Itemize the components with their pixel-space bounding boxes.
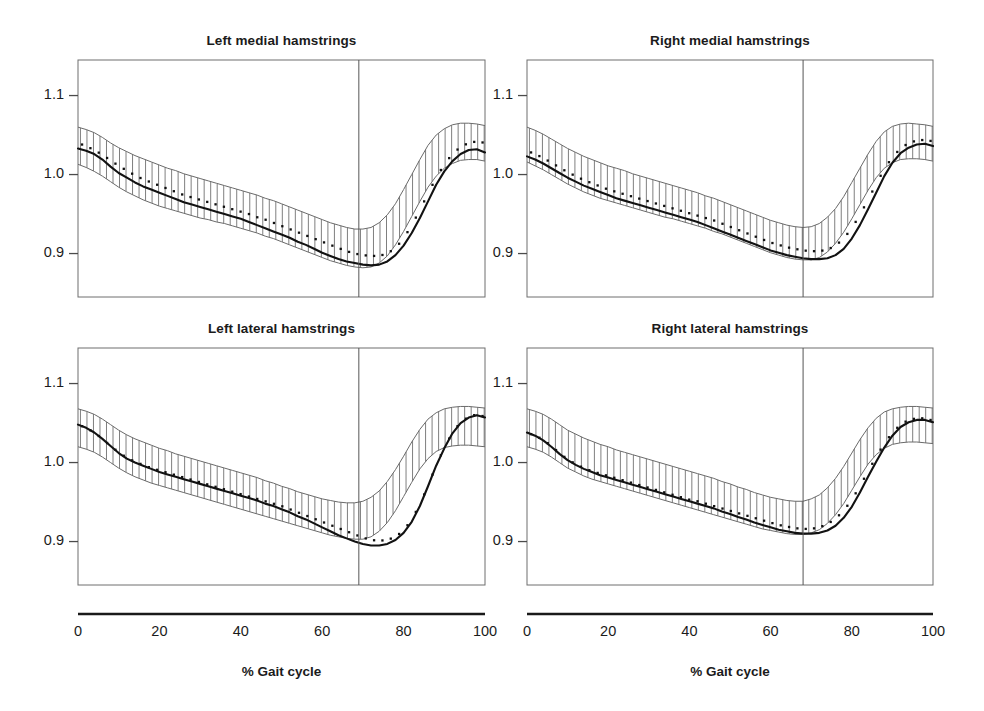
y-tick-label: 0.9 — [12, 532, 64, 548]
plot-area-bottom-right — [467, 340, 963, 607]
x-tick-label: 20 — [578, 623, 638, 639]
x-axis-rule-left — [74, 609, 489, 619]
plot-area-top-right — [467, 52, 963, 319]
y-tick-marks — [69, 384, 78, 542]
x-tick-label: 0 — [497, 623, 557, 639]
x-tick-label: 80 — [822, 623, 882, 639]
y-tick-label: 0.9 — [461, 532, 513, 548]
x-axis-rule-right — [523, 609, 937, 619]
y-tick-label: 0.9 — [461, 244, 513, 260]
y-tick-marks — [518, 384, 527, 542]
y-tick-label: 0.9 — [12, 244, 64, 260]
x-axis-title: % Gait cycle — [527, 664, 933, 679]
plot-area-bottom-left — [18, 340, 515, 607]
y-tick-label: 1.0 — [461, 165, 513, 181]
y-tick-label: 1.1 — [12, 374, 64, 390]
x-tick-label: 0 — [48, 623, 108, 639]
x-tick-label: 40 — [211, 623, 271, 639]
plot-area-top-left — [18, 52, 515, 319]
hamstrings-gait-figure: Left medial hamstrings0.91.01.1Right med… — [0, 0, 984, 711]
panel-title-top-left: Left medial hamstrings — [78, 33, 485, 48]
y-tick-marks — [69, 96, 78, 254]
x-axis-title: % Gait cycle — [78, 664, 485, 679]
y-tick-label: 1.1 — [12, 86, 64, 102]
x-tick-label: 80 — [374, 623, 434, 639]
y-tick-label: 1.0 — [461, 453, 513, 469]
y-tick-label: 1.1 — [461, 374, 513, 390]
y-tick-label: 1.0 — [12, 165, 64, 181]
x-tick-label: 100 — [903, 623, 963, 639]
panel-title-bottom-right: Right lateral hamstrings — [527, 321, 933, 336]
y-tick-marks — [518, 96, 527, 254]
x-tick-label: 60 — [292, 623, 352, 639]
y-tick-label: 1.0 — [12, 453, 64, 469]
x-tick-label: 60 — [741, 623, 801, 639]
x-tick-label: 40 — [659, 623, 719, 639]
x-tick-label: 20 — [129, 623, 189, 639]
panel-title-top-right: Right medial hamstrings — [527, 33, 933, 48]
panel-title-bottom-left: Left lateral hamstrings — [78, 321, 485, 336]
y-tick-label: 1.1 — [461, 86, 513, 102]
